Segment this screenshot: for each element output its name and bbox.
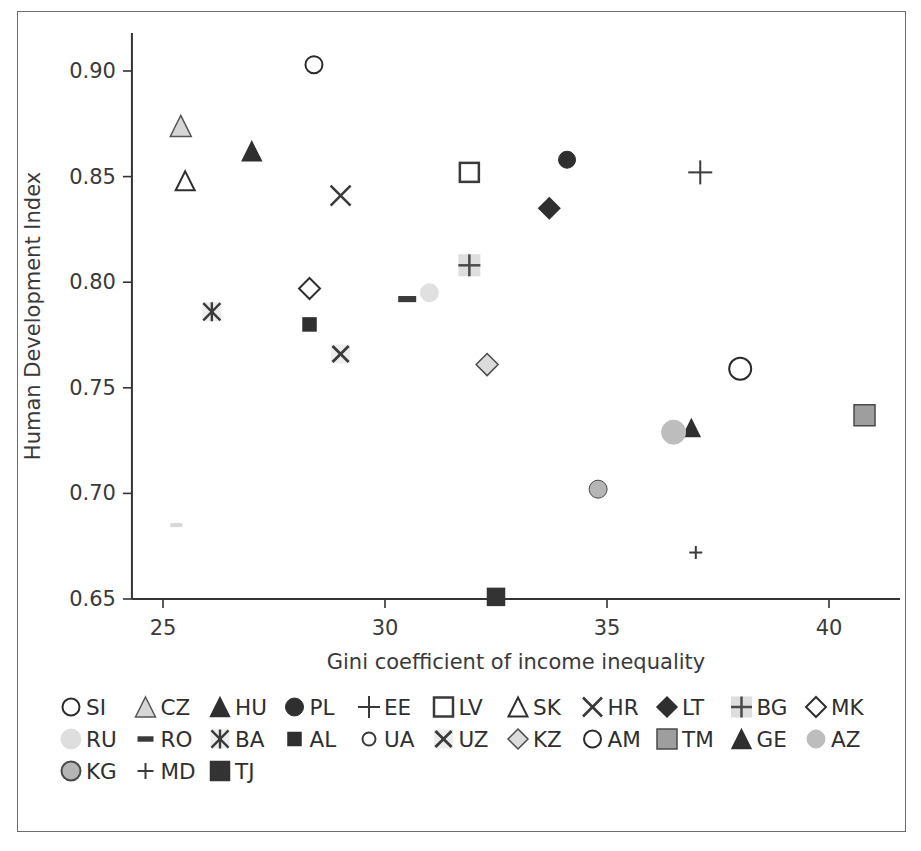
square-outline-icon [434, 698, 453, 717]
legend-label-ro: RO [161, 727, 193, 752]
dash-icon [138, 736, 154, 741]
circle-icon [559, 151, 576, 168]
diamond-icon [476, 354, 498, 376]
legend-label-mk: MK [831, 695, 865, 720]
legend-label-bg: BG [757, 695, 788, 720]
y-tick-label: 0.70 [69, 481, 116, 505]
legend-entry-ge: GE [732, 727, 787, 752]
square-icon [211, 762, 230, 781]
data-point-al: AL (28.3, 0.78) [303, 318, 316, 331]
data-point-md: MD (37, 0.672) [689, 546, 702, 559]
y-tick-label: 0.75 [69, 376, 116, 400]
marker-legend-kz [508, 729, 528, 749]
data-point-tj: TJ (32.5, 0.651) [488, 588, 505, 605]
legend-label-ua: UA [384, 727, 415, 752]
scatter-plot-area: 0.650.700.750.800.850.9025303540Gini coe… [18, 12, 907, 833]
data-point-pl: PL (34.1, 0.858) [559, 151, 576, 168]
x-tick-label: 30 [372, 616, 399, 640]
circle-icon [589, 480, 607, 498]
legend-label-kg: KG [86, 759, 117, 784]
y-tick-label: 0.65 [69, 587, 116, 611]
marker-legend-ru [61, 729, 81, 749]
legend-label-am: AM [608, 727, 641, 752]
legend-entry-si: SI [63, 695, 107, 720]
legend-label-hr: HR [608, 695, 639, 720]
diamond-icon [508, 729, 528, 749]
marker-legend-md [138, 763, 154, 779]
marker-legend-ba [211, 730, 230, 749]
marker-legend-tm [657, 729, 677, 749]
data-point-uz: UZ (29, 0.766) [331, 345, 350, 364]
legend-entry-pl: PL [286, 695, 335, 720]
legend-label-lv: LV [459, 695, 484, 720]
data-point-ru: RU (25.3, 0.685) [170, 523, 182, 527]
data-point-lt: LT (33.7, 0.835) [539, 198, 560, 219]
marker-legend-lt [657, 697, 677, 717]
circle-outline-icon [63, 699, 80, 716]
circle-outline-icon [584, 731, 601, 748]
legend-entry-tj: TJ [211, 759, 255, 784]
legend-entry-az: AZ [807, 727, 860, 752]
legend-entry-kz: KZ [508, 727, 562, 752]
legend-label-kz: KZ [533, 727, 562, 752]
marker-legend-az [807, 730, 825, 748]
legend-entry-md: MD [138, 759, 196, 784]
x-tick-label: 40 [816, 616, 843, 640]
marker-legend-ge [732, 730, 751, 749]
scatter-chart-svg: 0.650.700.750.800.850.9025303540Gini coe… [18, 12, 907, 833]
legend-entry-tm: TM [657, 727, 714, 752]
legend-entry-cz: CZ [136, 695, 191, 720]
legend-entry-ua: UA [363, 727, 415, 752]
legend-label-az: AZ [831, 727, 860, 752]
data-point-cz: CZ (25.4, 0.874) [170, 115, 191, 136]
legend-entry-lt: LT [657, 695, 705, 720]
data-point-ba: BA (26.1, 0.786) [202, 302, 221, 321]
legend-label-al: AL [310, 727, 337, 752]
legend-label-lt: LT [682, 695, 705, 720]
data-point-az: AZ (36.5, 0.729) [662, 420, 686, 444]
legend-label-ba: BA [235, 727, 265, 752]
data-point-ua: UA (31, 0.795) [420, 284, 438, 302]
x-axis-title: Gini coefficient of income inequality [327, 650, 705, 674]
legend-entry-uz: UZ [434, 727, 489, 752]
triangle-icon [732, 730, 751, 749]
legend-entry-kg: KG [62, 759, 117, 784]
y-tick-label: 0.85 [69, 165, 116, 189]
square-outline-icon [460, 163, 479, 182]
y-axis-title: Human Development Index [21, 172, 45, 460]
marker-legend-tj [211, 762, 230, 781]
legend-entry-ee: EE [358, 695, 411, 720]
legend-label-md: MD [161, 759, 196, 784]
marker-legend-mk [806, 697, 826, 717]
triangle-icon [242, 142, 261, 161]
circle-outline-icon [729, 358, 751, 380]
square-icon [488, 588, 505, 605]
data-point-bg: BG (31.9, 0.808) [458, 254, 480, 276]
circle-icon [286, 698, 304, 716]
legend-label-tm: TM [681, 727, 714, 752]
square-icon [854, 405, 875, 426]
legend-label-si: SI [86, 695, 106, 720]
triangle-outline-icon [176, 171, 195, 190]
circle-icon [420, 284, 438, 302]
dash-icon [170, 523, 182, 527]
triangle-icon [136, 697, 156, 717]
marker-legend-hr [583, 698, 602, 717]
legend-label-cz: CZ [161, 695, 191, 720]
marker-legend-lv [434, 698, 453, 717]
marker-legend-sk [509, 698, 528, 717]
marker-legend-pl [286, 698, 304, 716]
data-point-am: AM (38, 0.759) [729, 358, 751, 380]
legend-entry-ro: RO [138, 727, 193, 752]
x-tick-label: 35 [594, 616, 621, 640]
marker-legend-ua [363, 733, 376, 746]
legend-entry-al: AL [288, 727, 336, 752]
square-icon [657, 729, 677, 749]
circle-outline-icon [363, 733, 376, 746]
diamond-outline-icon [299, 278, 320, 299]
legend-entry-hr: HR [583, 695, 639, 720]
triangle-icon [170, 115, 191, 136]
marker-legend-kg [62, 762, 81, 781]
marker-legend-si [63, 699, 80, 716]
legend-entry-lv: LV [434, 695, 483, 720]
